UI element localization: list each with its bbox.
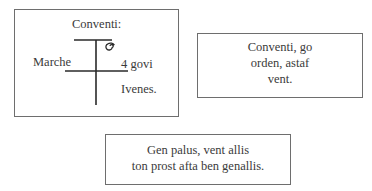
box2-line-3: vent. (197, 72, 363, 87)
box3-line-1: Gen palus, vent allis (105, 143, 291, 158)
box2-line-1: Conventi, go (197, 40, 363, 55)
box2-line-2: orden, astaf (197, 56, 363, 71)
spiral-icon (106, 43, 114, 50)
box3-line-2: ton prost afta ben genallis. (105, 159, 291, 174)
